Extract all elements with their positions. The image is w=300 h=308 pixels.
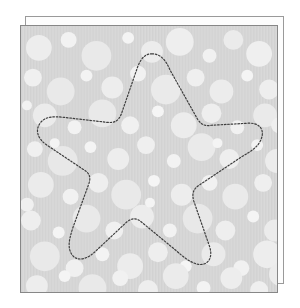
canvas-root [0,0,300,308]
star-cut-line[interactable] [21,26,277,292]
patterned-sheet[interactable] [20,25,278,293]
star-cut-path[interactable] [37,54,262,265]
